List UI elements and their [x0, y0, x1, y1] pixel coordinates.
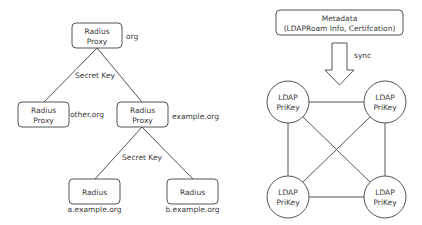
node-label-line1: Radius [84, 27, 109, 36]
diagram-canvas: Secret Key Secret Key Radius Proxy org R… [0, 0, 422, 225]
domain-label-other-org: other.org [70, 110, 104, 119]
sync-arrow: sync [325, 43, 371, 85]
node-label-line2: PriKey [373, 198, 397, 207]
node-label-line2: Proxy [87, 37, 108, 46]
node-circle [364, 81, 406, 123]
node-circle [364, 176, 406, 218]
node-circle [267, 176, 309, 218]
node-label-line1: LDAP [278, 93, 298, 102]
node-radius-b-example-org: Radius b.example.org [165, 179, 219, 214]
node-label-line2: Proxy [33, 116, 54, 125]
node-label-line1: Radius [31, 106, 56, 115]
node-ldap-prikey-tr: LDAP PriKey [364, 81, 406, 123]
edge-label-secret-key-bottom: Secret Key [122, 153, 163, 162]
node-radius-proxy-other-org: Radius Proxy other.org [18, 102, 104, 127]
node-label-line1: Radius [82, 188, 107, 197]
metadata-subtitle: (LDAPRoam Info, Certifcation) [284, 24, 396, 33]
metadata-box: Metadata (LDAPRoam Info, Certifcation) [276, 10, 403, 35]
node-label-line2: PriKey [276, 103, 300, 112]
node-ldap-prikey-tl: LDAP PriKey [267, 81, 309, 123]
domain-label-b-example-org: b.example.org [165, 205, 219, 214]
node-label-line2: PriKey [373, 103, 397, 112]
node-label-line1: LDAP [375, 93, 395, 102]
node-ldap-prikey-br: LDAP PriKey [364, 176, 406, 218]
down-arrow-icon [325, 43, 354, 85]
node-radius-proxy-org: Radius Proxy org [72, 23, 139, 48]
domain-label-example-org: example.org [172, 112, 219, 121]
node-circle [267, 81, 309, 123]
node-label-line2: PriKey [276, 198, 300, 207]
node-label-line1: Radius [180, 188, 205, 197]
edge-label-secret-key-top: Secret Key [75, 71, 116, 80]
domain-label-a-example-org: a.example.org [68, 205, 122, 214]
node-ldap-prikey-bl: LDAP PriKey [267, 176, 309, 218]
node-label-line1: Radius [130, 106, 155, 115]
node-label-line2: Proxy [132, 116, 153, 125]
sync-label: sync [354, 51, 371, 60]
node-radius-a-example-org: Radius a.example.org [68, 179, 122, 214]
domain-label-org: org [126, 32, 139, 41]
node-label-line1: LDAP [375, 188, 395, 197]
node-radius-proxy-example-org: Radius Proxy example.org [117, 102, 219, 127]
metadata-title: Metadata [322, 14, 358, 23]
node-label-line1: LDAP [278, 188, 298, 197]
